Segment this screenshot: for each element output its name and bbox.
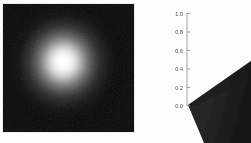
- psf-noise-overlay: [3, 4, 134, 132]
- plot-panel: 1.0 0.8 0.6 0.4 0.2 0.0: [150, 0, 251, 143]
- y-tick-label-0.8: 0.8: [175, 29, 183, 35]
- dark-wedge-series: [188, 61, 251, 143]
- y-tick-label-0.2: 0.2: [175, 85, 183, 91]
- plot-svg: 1.0 0.8 0.6 0.4 0.2 0.0: [150, 0, 251, 143]
- psf-image-panel: [3, 4, 134, 132]
- y-tick-label-0.6: 0.6: [175, 48, 183, 54]
- y-tick-label-1.0: 1.0: [175, 11, 183, 17]
- figure-root: 1.0 0.8 0.6 0.4 0.2 0.0: [0, 0, 251, 143]
- y-tick-label-0.4: 0.4: [175, 66, 183, 72]
- y-tick-label-0.0: 0.0: [175, 103, 183, 109]
